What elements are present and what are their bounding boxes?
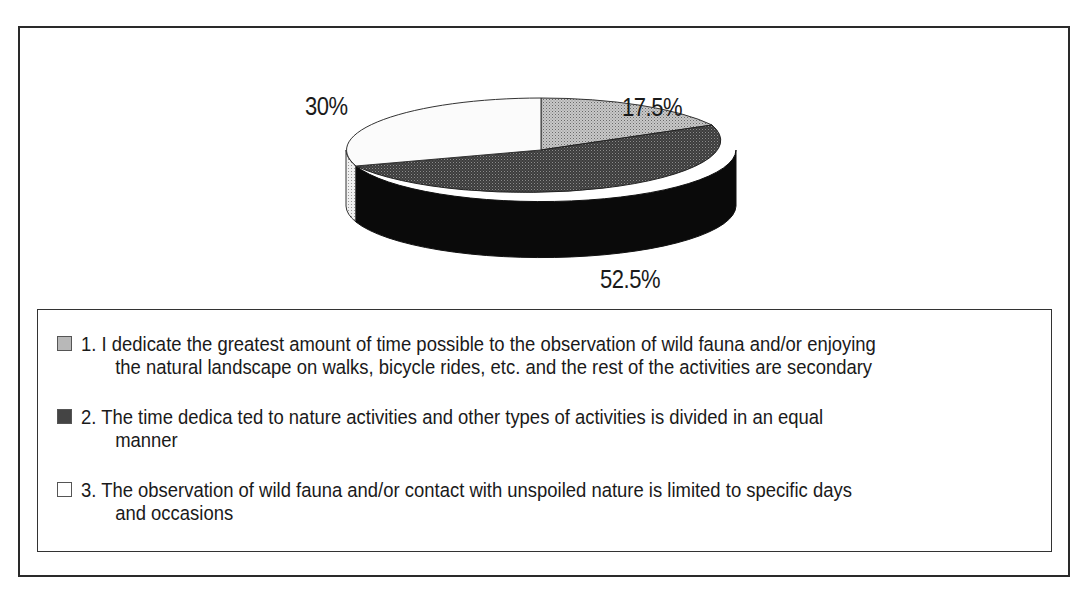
legend-item-3-line1: 3. The observation of wild fauna and/or … [81,478,852,501]
legend-item-3-line2: and occasions [81,501,968,524]
legend: 1. I dedicate the greatest amount of tim… [37,309,1052,552]
legend-item-2-line1: 2. The time dedica ted to nature activit… [81,405,823,428]
slice3-percent-label: 30% [305,92,348,121]
pie-chart [0,0,1087,300]
legend-item-1-line1: 1. I dedicate the greatest amount of tim… [81,332,876,355]
legend-item-1-line2: the natural landscape on walks, bicycle … [81,355,968,378]
light-gray-swatch-icon [57,336,72,351]
slice1-percent-label: 17.5% [622,93,682,122]
white-swatch-icon [57,482,72,497]
dark-gray-swatch-icon [57,409,72,424]
legend-item-2-line2: manner [81,428,968,451]
slice2-percent-label: 52.5% [600,265,660,294]
